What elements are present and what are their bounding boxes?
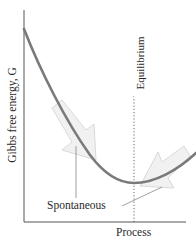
- spontaneous-label: Spontaneous: [47, 199, 106, 211]
- x-axis-label: Process: [116, 226, 151, 238]
- leader-line-right: [122, 187, 162, 206]
- equilibrium-label: Equilibrium: [134, 28, 146, 98]
- gibbs-energy-diagram: Gibbs free energy, G Equilibrium Spontan…: [0, 0, 196, 247]
- y-axis-label: Gibbs free energy, G: [6, 50, 18, 180]
